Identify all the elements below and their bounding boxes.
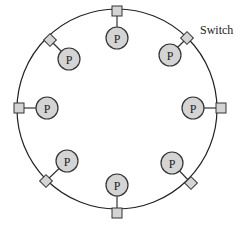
processor-label: P <box>114 179 121 193</box>
ring-network-diagram: PPPPPPPP Switch <box>0 0 241 232</box>
square-switch-icon-left <box>14 103 24 113</box>
processor-node-bottom-left: P <box>56 150 78 172</box>
processor-label: P <box>114 32 121 46</box>
processors: PPPPPPPP <box>36 27 204 196</box>
processor-node-bottom: P <box>106 174 128 196</box>
processor-node-right: P <box>182 97 204 119</box>
processor-label: P <box>167 49 174 63</box>
processor-node-top-left: P <box>58 48 80 70</box>
processor-node-top: P <box>106 27 128 49</box>
square-switch-icon-right <box>216 103 226 113</box>
processor-label: P <box>190 102 197 116</box>
square-switch-icon-top <box>112 6 122 16</box>
processor-label: P <box>64 155 71 169</box>
square-switch-icon-bottom <box>112 208 122 218</box>
processor-label: P <box>44 102 51 116</box>
processor-node-left: P <box>36 97 58 119</box>
processor-label: P <box>66 53 73 67</box>
processor-node-bottom-right: P <box>161 152 183 174</box>
processor-label: P <box>169 157 176 171</box>
switch-label: Switch <box>200 23 233 37</box>
processor-node-top-right: P <box>159 44 181 66</box>
